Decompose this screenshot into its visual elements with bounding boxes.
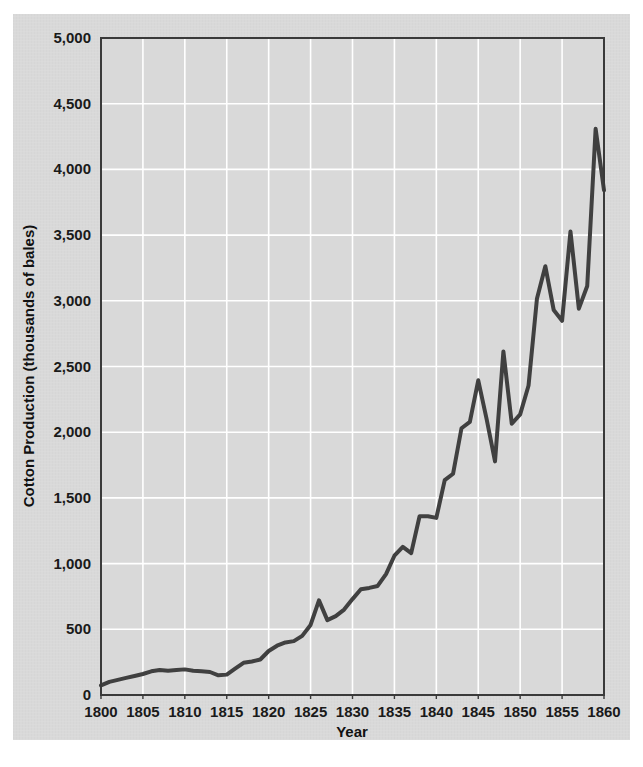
y-tick-label: 0	[83, 686, 91, 703]
y-tick-label: 2,000	[53, 423, 91, 440]
x-tick-label: 1820	[252, 703, 285, 720]
x-tick-label: 1805	[126, 703, 159, 720]
x-tick-label: 1855	[545, 703, 578, 720]
y-tick-label: 1,000	[53, 555, 91, 572]
x-tick-label: 1825	[294, 703, 327, 720]
x-tick-label: 1860	[587, 703, 620, 720]
x-tick-label: 1845	[462, 703, 495, 720]
y-tick-label: 1,500	[53, 489, 91, 506]
x-tick-label: 1810	[168, 703, 201, 720]
y-tick-label: 5,000	[53, 29, 91, 46]
x-tick-label: 1830	[336, 703, 369, 720]
chart-figure: 05001,0001,5002,0002,5003,0003,5004,0004…	[0, 0, 643, 767]
cotton-production-line-chart: 05001,0001,5002,0002,5003,0003,5004,0004…	[0, 0, 643, 767]
y-tick-label: 4,000	[53, 160, 91, 177]
y-tick-label: 4,500	[53, 95, 91, 112]
y-tick-label: 3,500	[53, 226, 91, 243]
y-axis-tick-labels: 05001,0001,5002,0002,5003,0003,5004,0004…	[53, 29, 91, 703]
x-axis-title: Year	[336, 723, 368, 740]
y-tick-label: 2,500	[53, 358, 91, 375]
y-tick-label: 500	[66, 620, 91, 637]
x-tick-label: 1835	[378, 703, 411, 720]
y-tick-label: 3,000	[53, 292, 91, 309]
x-tick-label: 1850	[503, 703, 536, 720]
y-axis-title: Cotton Production (thousands of bales)	[20, 225, 37, 507]
x-tick-label: 1800	[84, 703, 117, 720]
x-tick-label: 1840	[420, 703, 453, 720]
x-tick-label: 1815	[210, 703, 243, 720]
x-axis-tick-labels: 1800180518101815182018251830183518401845…	[84, 703, 620, 720]
